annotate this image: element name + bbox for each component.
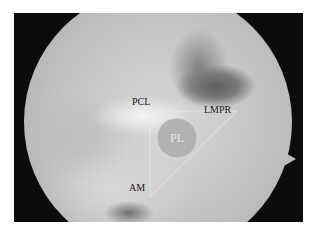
label-pcl: PCL (132, 97, 150, 107)
label-pl: PL (170, 132, 184, 144)
label-am: AM (129, 183, 145, 193)
label-lmpr: LMPR (204, 105, 231, 115)
annotation-overlay (0, 0, 318, 236)
